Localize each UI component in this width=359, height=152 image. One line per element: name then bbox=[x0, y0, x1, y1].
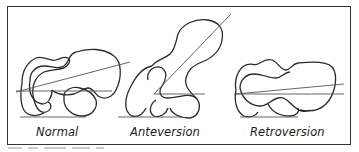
label-retroversion: Retroversion bbox=[250, 125, 325, 139]
panel-normal-illustration bbox=[21, 49, 120, 116]
retroversion-axes bbox=[234, 84, 344, 117]
label-anteversion: Anteversion bbox=[130, 125, 200, 139]
retroversion-inner-outline bbox=[240, 72, 310, 111]
anteversion-axes bbox=[118, 14, 231, 117]
retroversion-neck-axis bbox=[236, 84, 344, 94]
panel-anteversion-illustration bbox=[126, 20, 223, 118]
panel-retroversion-illustration bbox=[235, 59, 335, 116]
label-normal: Normal bbox=[36, 125, 78, 139]
anteversion-neck-axis bbox=[154, 14, 231, 94]
anteversion-lower-lobe bbox=[150, 100, 168, 117]
truncated-caption bbox=[8, 147, 128, 151]
